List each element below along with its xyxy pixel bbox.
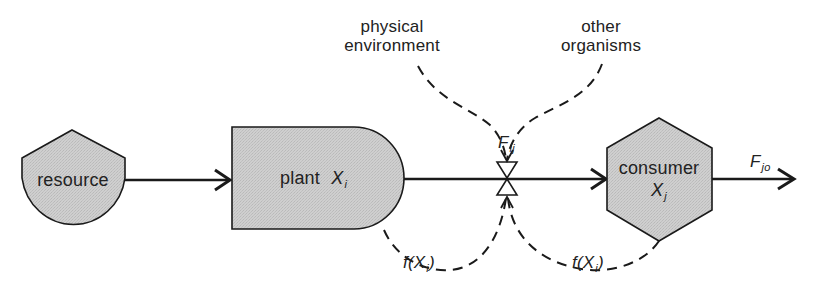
consumer-variable-subscript: j [664, 190, 667, 202]
influence-other-organisms [507, 64, 602, 160]
other-organisms-line2: organisms [561, 36, 641, 55]
flow-jo-symbol: F [750, 152, 761, 171]
feedback-consumer-func: f( [572, 253, 583, 272]
consumer-variable-group: Xj [651, 180, 667, 206]
feedback-plant-label: f(Xi) [403, 253, 435, 278]
physical-environment-line2: environment [344, 36, 440, 55]
feedback-consumer-var: X [583, 253, 595, 272]
other-organisms-label: other organisms [561, 17, 641, 55]
valve-feedback-arrow-icon [501, 197, 513, 208]
consumer-label: consumer [619, 158, 700, 178]
flow-ij-subscript: ij [510, 142, 515, 154]
consumer-variable: X [651, 180, 663, 200]
flow-jo-subscript: jo [762, 161, 771, 173]
feedback-plant-func: f( [403, 253, 414, 272]
flow-ij-label: Fij [498, 133, 515, 158]
plant-name: plant [280, 168, 320, 188]
feedback-consumer-label: f(Xi) [572, 253, 604, 278]
plant-label: plant Xi [280, 168, 347, 194]
influence-physical-environment [418, 66, 506, 160]
feedback-plant-var: X [414, 253, 426, 272]
feedback-consumer-close: ) [598, 253, 604, 272]
flow-ij-symbol: F [498, 133, 509, 152]
physical-environment-line1: physical [344, 17, 440, 36]
other-organisms-line1: other [561, 17, 641, 36]
feedback-plant-close: ) [429, 253, 435, 272]
physical-environment-label: physical environment [344, 17, 440, 55]
plant-variable: X [331, 168, 343, 188]
plant-variable-subscript: i [344, 178, 347, 190]
resource-label: resource [37, 170, 109, 190]
flow-jo-label: Fjo [750, 152, 771, 177]
